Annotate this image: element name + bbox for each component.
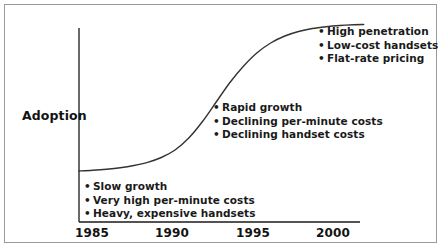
annotation-growth-list: • Rapid growth • Declining per-minute co…: [213, 101, 383, 142]
bullet-icon: •: [213, 128, 220, 142]
list-item-label: Flat-rate pricing: [327, 52, 424, 64]
list-item-label: Slow growth: [93, 180, 167, 192]
x-tick-label-1990: 1990: [155, 226, 189, 240]
x-tick-label-2000: 2000: [316, 226, 350, 240]
annotation-mature-list: • High penetration • Low-cost handsets •…: [318, 25, 438, 66]
list-item-label: Declining per-minute costs: [222, 115, 383, 127]
list-item: • Rapid growth: [213, 101, 383, 115]
x-tick-label-1985: 1985: [75, 226, 109, 240]
annotation-early-stage: • Slow growth • Very high per-minute cos…: [84, 180, 255, 221]
list-item: • Declining handset costs: [213, 128, 383, 142]
list-item-label: Rapid growth: [222, 101, 302, 113]
bullet-icon: •: [213, 115, 220, 129]
bullet-icon: •: [84, 194, 91, 208]
list-item-label: Declining handset costs: [222, 128, 365, 140]
x-tick-label-1995: 1995: [236, 226, 270, 240]
annotation-early-list: • Slow growth • Very high per-minute cos…: [84, 180, 255, 221]
bullet-icon: •: [318, 39, 325, 53]
list-item-label: Very high per-minute costs: [93, 194, 255, 206]
bullet-icon: •: [84, 180, 91, 194]
bullet-icon: •: [318, 52, 325, 66]
list-item: • Very high per-minute costs: [84, 194, 255, 208]
list-item-label: Low-cost handsets: [327, 39, 438, 51]
bullet-icon: •: [84, 207, 91, 221]
bullet-icon: •: [318, 25, 325, 39]
list-item: • Declining per-minute costs: [213, 115, 383, 129]
list-item-label: High penetration: [327, 25, 429, 37]
bullet-icon: •: [213, 101, 220, 115]
list-item: • High penetration: [318, 25, 438, 39]
annotation-mature-stage: • High penetration • Low-cost handsets •…: [318, 25, 438, 66]
list-item-label: Heavy, expensive handsets: [93, 207, 255, 219]
list-item: • Slow growth: [84, 180, 255, 194]
annotation-growth-stage: • Rapid growth • Declining per-minute co…: [213, 101, 383, 142]
list-item: • Flat-rate pricing: [318, 52, 438, 66]
list-item: • Heavy, expensive handsets: [84, 207, 255, 221]
y-axis-label: Adoption: [22, 108, 87, 123]
adoption-s-curve-figure: Adoption 1985 1990 1995 2000 • Slow grow…: [0, 0, 444, 252]
list-item: • Low-cost handsets: [318, 39, 438, 53]
